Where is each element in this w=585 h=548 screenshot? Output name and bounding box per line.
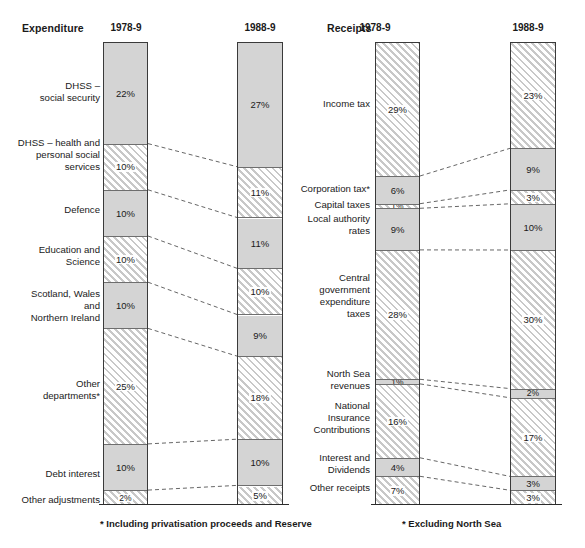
receipts-bar-1978-9: 29% 6% 1% 9% 28% 1% 16% 4% — [375, 42, 420, 504]
receipts-baseline — [371, 504, 562, 505]
receipts-segment-capital-taxes-1988-9: 3% — [511, 191, 555, 205]
segment-value: 22% — [115, 89, 136, 99]
segment-value: 2% — [118, 494, 132, 503]
segment-value: 10% — [115, 255, 136, 265]
receipts-column-header-1978-9: 1978-9 — [345, 22, 405, 33]
segment-value: 17% — [522, 433, 543, 443]
segment-value: 4% — [390, 463, 406, 473]
segment-value: 10% — [522, 223, 543, 233]
expenditure-footnote: * Including privatisation proceeds and R… — [100, 518, 312, 529]
segment-value: 10% — [115, 162, 136, 172]
expenditure-segment-other-adjustments-1978-9: 2% — [104, 491, 147, 505]
receipts-footnote: * Excluding North Sea — [402, 518, 501, 529]
segment-value: 29% — [387, 105, 408, 115]
receipts-segment-central-government-expenditure-taxes-1978-9: 28% — [376, 251, 419, 380]
segment-value: 10% — [115, 301, 136, 311]
segment-value: 10% — [115, 209, 136, 219]
receipts-segment-north-sea-revenues-1988-9: 2% — [511, 390, 555, 399]
segment-value: 23% — [522, 91, 543, 101]
segment-value: 25% — [115, 382, 136, 392]
expenditure-panel-title: Expenditure — [22, 22, 84, 34]
segment-value: 27% — [249, 100, 270, 110]
receipts-segment-other-receipts-1988-9: 3% — [511, 491, 555, 505]
expenditure-panel: Expenditure 1978-9 1988-9 22% 10% 10% — [0, 0, 300, 548]
expenditure-segment-education-1978-9: 10% — [104, 237, 147, 283]
receipts-segment-local-authority-rates-1988-9: 10% — [511, 205, 555, 251]
receipts-label-north-sea-revenues: North Sea revenues — [275, 368, 370, 392]
segment-value: 18% — [249, 393, 270, 403]
expenditure-segment-defence-1978-9: 10% — [104, 191, 147, 237]
receipts-segment-other-receipts-1978-9: 7% — [376, 477, 419, 505]
receipts-bar-1988-9: 23% 9% 3% 10% 30% 2% 17% 3% — [510, 42, 556, 504]
receipts-column-header-1988-9: 1988-9 — [498, 22, 558, 33]
receipts-segment-corporation-tax-1988-9: 9% — [511, 149, 555, 191]
expenditure-segment-debt-interest-1978-9: 10% — [104, 445, 147, 491]
receipts-segment-corporation-tax-1978-9: 6% — [376, 177, 419, 205]
receipts-segment-national-insurance-contributions-1978-9: 16% — [376, 385, 419, 459]
segment-value: 3% — [525, 493, 541, 503]
expenditure-segment-scotland-wales-ni-1978-9: 10% — [104, 283, 147, 329]
expenditure-bar-1978-9: 22% 10% 10% 10% 10% 25% 10% 2% — [103, 42, 148, 504]
receipts-panel: Receipts 1978-9 1988-9 29% 6% 1% — [300, 0, 585, 548]
expenditure-label-defence: Defence — [0, 204, 100, 216]
segment-value: 16% — [387, 417, 408, 427]
receipts-label-income-tax: Income tax — [278, 98, 370, 110]
receipts-segment-interest-and-dividends-1988-9: 3% — [511, 477, 555, 491]
receipts-label-local-authority-rates: Local authority rates — [275, 213, 370, 237]
expenditure-column-header-1978-9: 1978-9 — [96, 22, 156, 33]
segment-value: 30% — [522, 315, 543, 325]
segment-value: 7% — [390, 486, 406, 496]
expenditure-baseline — [99, 504, 289, 505]
receipts-segment-local-authority-rates-1978-9: 9% — [376, 209, 419, 251]
expenditure-segment-dhss-social-security-1988-9: 27% — [238, 43, 282, 168]
segment-value: 9% — [390, 225, 406, 235]
segment-value: 28% — [387, 310, 408, 320]
expenditure-segment-dhss-health-1978-9: 10% — [104, 145, 147, 191]
segment-value: 10% — [249, 458, 270, 468]
expenditure-segment-other-departments-1978-9: 25% — [104, 329, 147, 445]
receipts-segment-national-insurance-contributions-1988-9: 17% — [511, 399, 555, 478]
receipts-label-other-receipts: Other receipts — [275, 482, 370, 494]
receipts-label-corporation-tax: Corporation tax* — [275, 183, 370, 195]
segment-value: 3% — [525, 193, 541, 203]
receipts-segment-income-tax-1978-9: 29% — [376, 43, 419, 177]
receipts-segment-interest-and-dividends-1978-9: 4% — [376, 459, 419, 478]
segment-value: 9% — [525, 165, 541, 175]
expenditure-segment-scotland-wales-ni-1988-9: 9% — [238, 316, 282, 358]
segment-value: 9% — [252, 331, 268, 341]
expenditure-label-other-adjustments: Other adjustments — [0, 494, 100, 506]
expenditure-label-dhss-health: DHSS – health and personal social servic… — [0, 137, 100, 173]
receipts-label-central-government-expenditure-taxes: Central government expenditure taxes — [275, 272, 370, 320]
segment-value: 11% — [250, 239, 270, 249]
segment-value: 2% — [526, 390, 540, 398]
segment-value: 6% — [390, 186, 406, 196]
expenditure-label-dhss-social-security: DHSS – social security — [0, 80, 100, 104]
receipts-label-national-insurance-contributions: National Insurance Contributions — [275, 400, 370, 436]
receipts-label-capital-taxes: Capital taxes — [275, 199, 370, 211]
expenditure-label-education-and-science: Education and Science — [0, 244, 100, 268]
figure-root: Expenditure 1978-9 1988-9 22% 10% 10% — [0, 0, 585, 548]
expenditure-label-debt-interest: Debt interest — [0, 468, 100, 480]
segment-value: 10% — [249, 287, 270, 297]
receipts-segment-income-tax-1988-9: 23% — [511, 43, 555, 149]
expenditure-label-other-departments: Other departments* — [0, 378, 100, 402]
receipts-label-interest-and-dividends: Interest and Dividends — [275, 452, 370, 476]
expenditure-segment-dhss-social-security-1978-9: 22% — [104, 43, 147, 145]
segment-value: 5% — [252, 491, 268, 501]
segment-value: 3% — [525, 479, 541, 489]
expenditure-label-scotland-wales-ni: Scotland, Wales and Northern Ireland — [0, 288, 100, 324]
expenditure-column-header-1988-9: 1988-9 — [230, 22, 290, 33]
segment-value: 11% — [250, 188, 270, 198]
receipts-segment-central-government-expenditure-taxes-1988-9: 30% — [511, 251, 555, 390]
segment-value: 10% — [115, 463, 136, 473]
